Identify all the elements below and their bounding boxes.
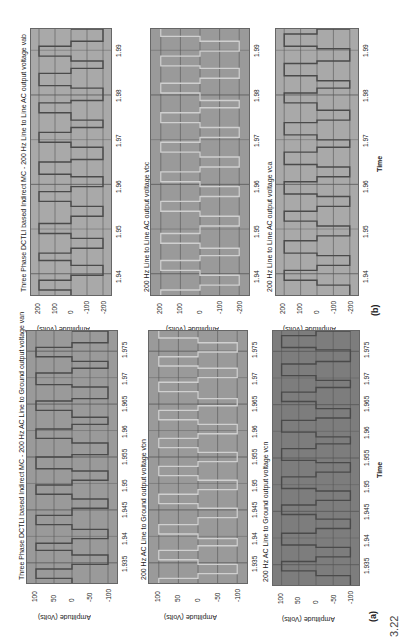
waveform bbox=[276, 29, 358, 295]
waveform bbox=[27, 331, 117, 583]
time-tick: 1.945 bbox=[251, 502, 258, 518]
time-tick: 1.975 bbox=[121, 342, 128, 358]
chart-title: 200 Hz Line to Line AC output voltage vc… bbox=[266, 162, 273, 292]
time-tick: 1.95 bbox=[121, 479, 128, 492]
time-tick: 1.98 bbox=[253, 90, 260, 103]
time-tick: 1.98 bbox=[362, 90, 369, 103]
time-tick: 1.975 bbox=[251, 342, 258, 358]
amplitude-tick: 0 bbox=[194, 598, 201, 602]
amplitude-tick: -200 bbox=[236, 301, 243, 314]
time-tick: 1.96 bbox=[253, 180, 260, 193]
amplitude-tick: 50 bbox=[174, 595, 181, 602]
plot-area bbox=[272, 330, 360, 586]
time-tick: 1.97 bbox=[121, 372, 128, 385]
amplitude-tick: 200 bbox=[156, 303, 163, 314]
time-tick: 1.94 bbox=[362, 270, 369, 283]
waveform bbox=[151, 29, 249, 295]
time-tick: 1.95 bbox=[253, 225, 260, 238]
amplitude-tick: -100 bbox=[347, 591, 354, 604]
amplitude-tick: 0 bbox=[313, 310, 320, 314]
time-tick: 1.945 bbox=[363, 503, 370, 519]
plot-area bbox=[148, 330, 248, 584]
panel-a-label: (a) bbox=[368, 611, 378, 622]
amplitude-tick: 100 bbox=[154, 591, 161, 602]
amplitude-axis-label: Amplitude (Volts) bbox=[164, 614, 217, 621]
time-tick: 1.935 bbox=[251, 555, 258, 571]
time-tick: 1.97 bbox=[115, 135, 122, 148]
amplitude-tick: 50 bbox=[50, 595, 57, 602]
amplitude-tick: 0 bbox=[196, 310, 203, 314]
amplitude-tick: 0 bbox=[68, 598, 75, 602]
time-tick: 1.96 bbox=[115, 180, 122, 193]
time-tick: 1.94 bbox=[253, 270, 260, 283]
time-tick: 1.95 bbox=[115, 225, 122, 238]
amplitude-tick: -100 bbox=[330, 301, 337, 314]
time-tick: 1.975 bbox=[363, 342, 370, 358]
amplitude-tick: 0 bbox=[312, 600, 319, 604]
time-tick: 1.95 bbox=[362, 225, 369, 238]
panel-b-label: (b) bbox=[370, 305, 380, 317]
time-tick: 1.965 bbox=[363, 396, 370, 412]
time-tick: 1.935 bbox=[363, 557, 370, 573]
amplitude-tick: 200 bbox=[279, 303, 286, 314]
amplitude-tick: -50 bbox=[214, 593, 221, 602]
amplitude-tick: 100 bbox=[51, 303, 58, 314]
chart-title: 200 Hz AC Line to Ground output voltage … bbox=[140, 439, 147, 580]
time-tick: 1.945 bbox=[121, 502, 128, 518]
time-tick: 1.94 bbox=[363, 534, 370, 547]
time-tick: 1.96 bbox=[251, 426, 258, 439]
chart-title: 200 Hz AC Line to Ground output voltage … bbox=[262, 442, 269, 582]
time-tick: 1.96 bbox=[362, 180, 369, 193]
time-tick: 1.97 bbox=[253, 135, 260, 148]
amplitude-tick: -200 bbox=[100, 301, 107, 314]
time-tick: 1.97 bbox=[251, 372, 258, 385]
time-tick: 1.94 bbox=[115, 270, 122, 283]
amplitude-axis-label: Amplitude (Volts) bbox=[282, 616, 335, 623]
amplitude-tick: 0 bbox=[67, 310, 74, 314]
time-axis-label-b: Time bbox=[376, 156, 383, 172]
time-tick: 1.97 bbox=[363, 373, 370, 386]
chart-title: 200 Hz Line to Line AC output voltage vb… bbox=[143, 162, 150, 292]
time-tick: 1.99 bbox=[362, 45, 369, 58]
time-tick: 1.94 bbox=[251, 532, 258, 545]
time-tick: 1.955 bbox=[363, 450, 370, 466]
time-tick: 1.95 bbox=[251, 479, 258, 492]
time-tick: 1.965 bbox=[251, 395, 258, 411]
time-tick: 1.965 bbox=[121, 395, 128, 411]
amplitude-axis-label: Amplitude (Volts) bbox=[38, 614, 91, 621]
time-axis-label-a: Time bbox=[376, 462, 383, 478]
waveform bbox=[149, 331, 247, 583]
time-tick: 1.96 bbox=[363, 426, 370, 439]
amplitude-tick: -100 bbox=[105, 589, 112, 602]
chart-title: Three Phase DCTLI based Indirect MC - 20… bbox=[20, 34, 27, 292]
time-tick: 1.955 bbox=[251, 449, 258, 465]
time-tick: 1.94 bbox=[121, 532, 128, 545]
amplitude-tick: -100 bbox=[83, 301, 90, 314]
amplitude-tick: 100 bbox=[277, 593, 284, 604]
amplitude-tick: 100 bbox=[31, 591, 38, 602]
amplitude-tick: 100 bbox=[296, 303, 303, 314]
time-tick: 1.99 bbox=[115, 45, 122, 58]
time-tick: 1.99 bbox=[253, 45, 260, 58]
waveform bbox=[31, 29, 111, 295]
time-tick: 1.96 bbox=[121, 426, 128, 439]
time-tick: 1.95 bbox=[363, 480, 370, 493]
waveform bbox=[273, 331, 359, 585]
plot-area bbox=[30, 28, 112, 296]
amplitude-tick: 200 bbox=[34, 303, 41, 314]
amplitude-tick: 50 bbox=[294, 597, 301, 604]
time-tick: 1.935 bbox=[121, 555, 128, 571]
amplitude-tick: -100 bbox=[216, 301, 223, 314]
time-tick: 1.97 bbox=[362, 135, 369, 148]
plot-area bbox=[150, 28, 250, 296]
time-tick: 1.955 bbox=[121, 449, 128, 465]
plot-area bbox=[275, 28, 359, 296]
plot-area bbox=[26, 330, 118, 584]
amplitude-tick: -50 bbox=[330, 595, 337, 604]
amplitude-tick: -200 bbox=[347, 301, 354, 314]
amplitude-tick: -100 bbox=[234, 589, 241, 602]
amplitude-tick: 100 bbox=[176, 303, 183, 314]
caption-fragment: 3.22 bbox=[388, 616, 400, 637]
time-tick: 1.98 bbox=[115, 90, 122, 103]
chart-title: Three Phase DCTLI based Indirect MC - 20… bbox=[18, 312, 25, 580]
